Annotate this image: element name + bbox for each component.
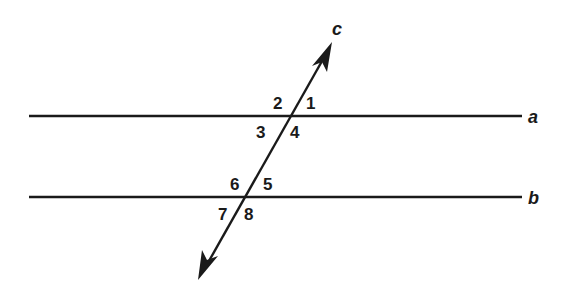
parallel-lines-transversal-diagram: c a b 1 2 3 4 5 6 7 8 (0, 0, 572, 294)
angle-8: 8 (244, 205, 253, 224)
label-c: c (332, 19, 342, 39)
arrowhead-down-icon (198, 250, 218, 280)
angle-3: 3 (256, 123, 265, 142)
arrowhead-up-icon (312, 42, 332, 72)
angle-4: 4 (290, 123, 300, 142)
angle-7: 7 (218, 205, 227, 224)
label-b: b (528, 188, 539, 208)
angle-2: 2 (273, 94, 282, 113)
label-a: a (528, 107, 538, 127)
angle-6: 6 (230, 175, 239, 194)
transversal-c (205, 54, 326, 268)
angle-1: 1 (306, 94, 315, 113)
angle-5: 5 (263, 175, 272, 194)
diagram-canvas: c a b 1 2 3 4 5 6 7 8 (0, 0, 572, 294)
